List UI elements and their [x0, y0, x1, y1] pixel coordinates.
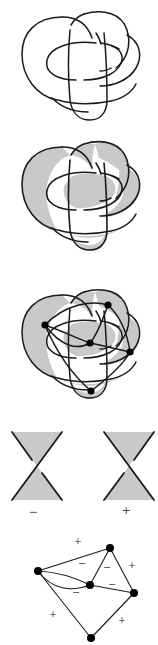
- overlay-shaded-regions: [22, 290, 140, 399]
- edge-sign-label: +: [128, 558, 135, 573]
- shaded-regions: [22, 142, 140, 251]
- knot-theory-figure: − +: [0, 0, 158, 645]
- edge-sign-label: −: [108, 577, 115, 592]
- negative-upper-wedge: [12, 432, 62, 466]
- overlay-vertex: [87, 387, 94, 394]
- graph-edge: [38, 571, 90, 589]
- overlay-vertex: [41, 321, 48, 328]
- edge-sign-label: −: [72, 585, 79, 600]
- graph-edge: [38, 571, 91, 638]
- crossing-signs-panel: − +: [0, 400, 158, 530]
- graph-vertex: [106, 544, 114, 552]
- edge-sign-label: −: [78, 556, 85, 571]
- graph-overlay-panel: [0, 260, 158, 400]
- graph-overlay-svg: [0, 260, 158, 400]
- knot-strands: [22, 12, 140, 120]
- graph-vertex: [130, 589, 138, 597]
- knot-diagram-svg: [0, 0, 158, 130]
- negative-crossing-label: −: [29, 505, 37, 520]
- checkerboard-shaded-svg: [0, 130, 158, 260]
- checkerboard-shaded-panel: [0, 130, 158, 260]
- negative-lower-wedge: [12, 466, 62, 500]
- graph-edge: [91, 593, 134, 638]
- edge-sign-label: +: [118, 613, 125, 628]
- overlay-vertex: [104, 301, 111, 308]
- negative-crossing: [12, 432, 62, 500]
- graph-edge: [38, 571, 90, 585]
- positive-crossing-label: +: [122, 503, 130, 518]
- overlay-vertex: [86, 339, 93, 346]
- graph-vertex: [87, 634, 95, 642]
- graph-vertex: [86, 581, 94, 589]
- signed-graph-svg: + − − − + − + +: [0, 528, 158, 645]
- positive-lower-wedge: [104, 466, 154, 500]
- signed-graph-panel: + − − − + − + +: [0, 528, 158, 645]
- positive-upper-wedge: [104, 432, 154, 466]
- edge-sign-label: +: [74, 534, 81, 549]
- positive-crossing: [104, 432, 154, 500]
- crossing-signs-svg: [0, 400, 158, 530]
- edge-sign-label: +: [49, 607, 56, 622]
- overlay-vertex: [126, 348, 133, 355]
- edge-sign-label: −: [103, 560, 110, 575]
- graph-vertex: [34, 567, 42, 575]
- knot-diagram-panel: [0, 0, 158, 130]
